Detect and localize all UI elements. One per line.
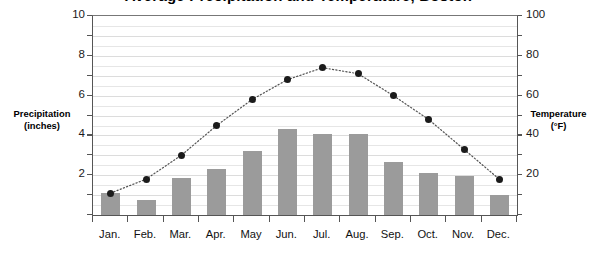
temperature-trend-path <box>111 68 500 193</box>
x-axis-tick <box>375 215 376 222</box>
y-axis-left-label: 10 <box>72 9 85 21</box>
temperature-dot-nov <box>461 146 468 153</box>
x-axis-tick <box>339 215 340 222</box>
plot-area <box>92 15 518 216</box>
y-axis-left-label: 8 <box>79 49 85 61</box>
x-axis-tick <box>410 215 411 222</box>
y-axis-left-label: 6 <box>79 89 85 101</box>
y-axis-left-title-line2: (inches) <box>0 120 84 132</box>
x-axis-label-dec: Dec. <box>475 228 521 240</box>
x-axis-tick <box>445 215 446 222</box>
x-axis-tick <box>516 215 517 222</box>
y-axis-left-title: Precipitation (inches) <box>0 108 84 132</box>
temperature-dot-feb <box>143 176 150 183</box>
chart-title: Average Precipitation and Temperature, B… <box>0 0 597 4</box>
temperature-dot-may <box>249 96 256 103</box>
y-axis-left-label: 4 <box>79 128 85 140</box>
y-axis-left-title-line1: Precipitation <box>0 108 84 120</box>
temperature-dot-jan <box>107 190 114 197</box>
x-axis-tick <box>198 215 199 222</box>
y-axis-right-label: 80 <box>526 49 539 61</box>
temperature-dot-sep <box>390 92 397 99</box>
y-axis-right-label: 40 <box>526 128 539 140</box>
x-axis-tick <box>269 215 270 222</box>
x-axis-tick <box>233 215 234 222</box>
x-axis-tick <box>92 215 93 222</box>
y-axis-right-label: 100 <box>526 9 545 21</box>
temperature-dot-jun <box>284 76 291 83</box>
y-axis-right-title-line1: Temperature <box>520 108 597 120</box>
temperature-dot-aug <box>355 70 362 77</box>
temperature-dot-mar <box>178 152 185 159</box>
x-axis-tick <box>163 215 164 222</box>
temperature-dot-dec <box>496 176 503 183</box>
chart-figure: Average Precipitation and Temperature, B… <box>0 0 597 258</box>
y-axis-right-label: 60 <box>526 89 539 101</box>
x-axis-tick <box>127 215 128 222</box>
y-axis-left-label: 2 <box>79 168 85 180</box>
temperature-line <box>93 16 517 215</box>
x-axis-tick <box>304 215 305 222</box>
x-axis-tick <box>481 215 482 222</box>
y-axis-right-label: 20 <box>526 168 539 180</box>
